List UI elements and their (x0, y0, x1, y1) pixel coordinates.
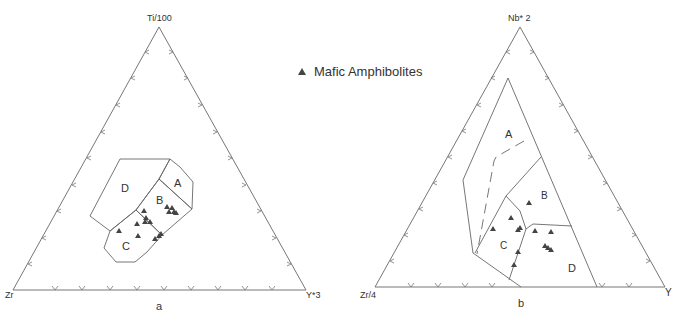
vertex-top-b: Nb* 2 (508, 13, 531, 23)
vertex-top-a: Ti/100 (147, 13, 172, 23)
field-b-d-divider (526, 224, 572, 229)
field-b-c-divider (506, 196, 526, 280)
field-label-b-b: B (541, 190, 548, 201)
caption-b: b (518, 297, 524, 309)
data-points-a (116, 204, 179, 241)
field-label-c-b: C (500, 240, 507, 251)
field-c-a (104, 210, 162, 262)
field-b-a (136, 179, 192, 235)
vertex-right-a: Y*3 (306, 290, 321, 300)
caption-a: a (156, 300, 163, 312)
vertex-left-b: Zr/4 (360, 290, 376, 300)
vertex-right-b: Y (665, 287, 672, 298)
vertex-left-a: Zr (5, 290, 14, 300)
field-label-d-a: D (121, 182, 129, 194)
field-label-a-b: A (505, 128, 513, 140)
legend-label: Mafic Amphibolites (314, 64, 422, 79)
field-label-c-a: C (122, 240, 130, 252)
triangle-a-frame (13, 27, 306, 290)
field-right-boundary (508, 78, 597, 287)
ternary-diagrams: Ti/100 Zr Y*3 a D A B C Nb* 2 Zr/4 Y b A… (0, 0, 676, 312)
legend: Mafic Amphibolites (298, 64, 422, 79)
triangle-marker-icon (298, 68, 306, 75)
data-points-b (490, 200, 554, 267)
field-label-b-a: B (156, 194, 163, 206)
field-label-a-a: A (174, 177, 182, 189)
field-label-d-b: D (568, 262, 576, 274)
tick-marks-a (28, 50, 291, 290)
tick-marks-b (390, 50, 650, 287)
field-a-b-boundary (463, 78, 521, 287)
